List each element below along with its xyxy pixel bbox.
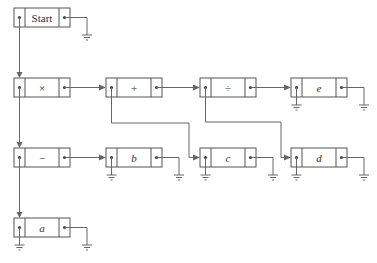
node-label: d [316,152,322,164]
node-divide: ÷ [200,78,256,97]
node-label: a [39,222,45,234]
node-label: − [39,152,45,164]
ground-icon [292,105,302,110]
ground-icon [15,245,25,250]
arrow-down-icon [17,142,23,148]
ground-icon [82,245,92,250]
node-label: ÷ [225,82,231,94]
node-d: d [291,148,347,167]
arrow-right-icon [284,155,291,161]
ground-icon [82,35,92,40]
ground-icon [268,175,278,180]
ground-icon [107,175,117,180]
arrow-right-icon [193,85,200,91]
node-label: Start [32,12,53,24]
node-b: b [106,148,162,167]
node-label: e [317,82,322,94]
node-times: × [14,78,70,97]
arrow-right-icon [284,85,291,91]
ground-icon [292,175,302,180]
node-label: + [131,82,137,94]
ground-icon [174,175,184,180]
node-label: × [39,82,45,94]
node-label: b [131,152,137,164]
arrow-right-icon [193,155,200,161]
node-e: e [291,78,347,97]
node-minus: − [14,148,70,167]
node-label: c [226,152,231,164]
node-start: Start [14,8,70,27]
edges [17,18,292,219]
arrow-right-icon [99,155,106,161]
expression-list-diagram: Start × + ÷ e [0,0,377,263]
edge-plus-to-c [112,88,197,158]
edge-divide-to-d [206,88,288,158]
node-a: a [14,218,70,237]
node-plus: + [106,78,162,97]
arrow-right-icon [99,85,106,91]
null-pointers [15,18,370,251]
ground-icon [359,175,369,180]
arrow-down-icon [17,212,23,218]
ground-icon [359,105,369,110]
arrow-down-icon [17,72,23,78]
ground-icon [201,175,211,180]
node-c: c [200,148,256,167]
